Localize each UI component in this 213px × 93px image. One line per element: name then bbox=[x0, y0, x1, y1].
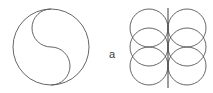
figure-container: a bbox=[0, 0, 213, 93]
geometric-figure-svg: a bbox=[0, 0, 213, 93]
figure-label-a: a bbox=[109, 48, 116, 60]
